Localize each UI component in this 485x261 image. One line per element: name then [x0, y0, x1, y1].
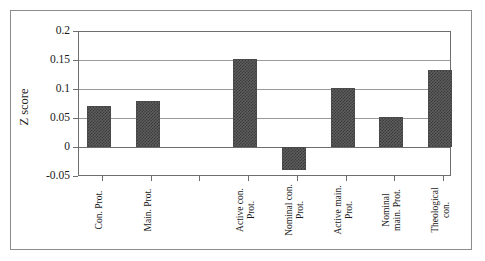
chart-figure: Z score 0.2 0.15 0.1 0.05 0 -0.05	[0, 0, 485, 261]
x-tick-label-con-prot: Con. Prot.	[94, 178, 105, 242]
y-tick-label-0: 0	[28, 141, 70, 153]
plot-area	[78, 31, 451, 176]
bar-con-prot	[87, 106, 111, 147]
bar-active-main-prot	[331, 88, 355, 147]
bar-nominal-main-prot	[379, 117, 403, 147]
x-tick-label-active-main-prot: Active main. Prot.	[333, 178, 354, 242]
y-tick-mark--0.05	[73, 176, 78, 177]
y-tick-label-0.2: 0.2	[28, 25, 70, 37]
x-tick-mark-2	[199, 176, 200, 181]
x-tick-label-theological-con: Theological con.	[430, 178, 451, 242]
y-tick-label-0.1: 0.1	[28, 83, 70, 95]
x-tick-label-active-con-prot: Active con. Prot.	[235, 178, 256, 242]
gridline-0.1	[79, 89, 450, 90]
y-tick-label--0.05: -0.05	[28, 170, 70, 182]
x-tick-label-nominal-con-prot: Nominal con. Prot.	[284, 178, 305, 242]
gridline-zero	[79, 147, 450, 148]
x-tick-label-nominal-main-prot: Nominal main. Prot.	[381, 178, 402, 242]
y-tick-label-0.15: 0.15	[28, 54, 70, 66]
bar-active-con-prot	[233, 59, 257, 147]
gridline-0.15	[79, 60, 450, 61]
bar-theological-con	[428, 70, 452, 147]
bar-nominal-con-prot	[282, 147, 306, 170]
bar-main-prot	[136, 101, 160, 147]
y-tick-label-0.05: 0.05	[28, 112, 70, 124]
x-tick-label-main-prot: Main. Prot.	[143, 178, 154, 242]
